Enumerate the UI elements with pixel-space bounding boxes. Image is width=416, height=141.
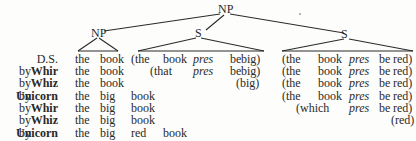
derivation-row: byWhizthebigbook(red) <box>0 114 416 126</box>
root-np-label: NP <box>218 3 233 15</box>
word-cell: book <box>163 127 187 139</box>
derivation-row: byUnicornthebigredbook <box>0 127 416 139</box>
rule-name: Whiz <box>31 114 58 126</box>
word-cell: book <box>318 77 342 89</box>
rule-name: Unicorn <box>16 127 58 139</box>
word-cell: the <box>75 127 90 139</box>
middle-s-label: S <box>195 27 202 39</box>
word-cell: book <box>100 77 124 89</box>
word-cell: (big) <box>236 77 259 89</box>
word-cell: (that <box>150 65 172 77</box>
word-cell: (the <box>282 77 301 89</box>
word-cell: the <box>75 77 90 89</box>
word-cell: (red) <box>391 114 414 126</box>
word-cell: pres <box>349 77 369 89</box>
word-cell: pres <box>349 102 369 114</box>
word-cell: red) <box>393 77 412 89</box>
word-cell: pres <box>193 65 213 77</box>
word-cell: big <box>100 127 115 139</box>
word-cell: red <box>131 127 146 139</box>
word-cell: big <box>100 114 115 126</box>
derivation-row: byWhirthebigbook(whichpresbered) <box>0 102 416 114</box>
word-cell: (the <box>131 53 150 65</box>
word-cell: book <box>131 114 155 126</box>
right-s-label: S <box>341 28 348 40</box>
derivation-row: byWhizthebook(big)(thebookpresbered) <box>0 77 416 89</box>
by-label: by <box>19 114 31 126</box>
word-cell: the <box>75 114 90 126</box>
left-np-label: NP <box>91 27 106 39</box>
by-label: by <box>19 77 31 89</box>
word-cell: be <box>379 77 390 89</box>
rule-name: Whiz <box>31 77 58 89</box>
word-cell: (which <box>296 102 329 114</box>
word-cell: be <box>379 102 390 114</box>
